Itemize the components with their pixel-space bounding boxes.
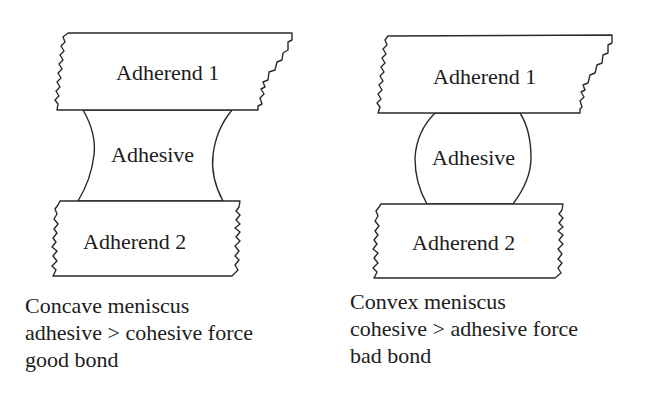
caption-concave-line-1: Concave meniscus <box>25 292 253 319</box>
caption-concave-line-3: good bond <box>25 346 253 373</box>
panel-concave: Adherend 1 Adhesive Adherend 2 <box>52 33 292 276</box>
panel-convex: Adherend 1 Adhesive Adherend 2 <box>373 35 612 278</box>
caption-convex: Convex meniscus cohesive > adhesive forc… <box>350 288 578 369</box>
caption-convex-line-3: bad bond <box>350 342 578 369</box>
adhesive-label: Adhesive <box>432 145 515 170</box>
caption-concave-line-2: adhesive > cohesive force <box>25 319 253 346</box>
adherend-1-label: Adherend 1 <box>116 60 219 85</box>
caption-convex-line-2: cohesive > adhesive force <box>350 315 578 342</box>
adherend-1-label: Adherend 1 <box>433 64 536 89</box>
adherend-2-label: Adherend 2 <box>83 229 186 254</box>
adherend-2-label: Adherend 2 <box>412 230 515 255</box>
adhesive-label: Adhesive <box>111 142 194 167</box>
caption-concave: Concave meniscus adhesive > cohesive for… <box>25 292 253 373</box>
caption-convex-line-1: Convex meniscus <box>350 288 578 315</box>
